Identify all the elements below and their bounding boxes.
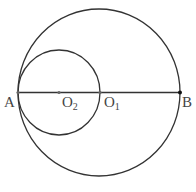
point-b-label: B: [182, 94, 192, 110]
point-o1-dot: [98, 91, 101, 94]
point-a-label: A: [4, 94, 15, 110]
point-o1-subscript: 1: [115, 101, 120, 112]
point-o1-label: O1: [104, 94, 120, 112]
point-a-dot: [16, 91, 19, 94]
geometry-diagram: AO2O1B: [0, 0, 196, 192]
point-o2-label: O2: [62, 94, 78, 112]
point-o2-subscript: 2: [73, 101, 78, 112]
point-o2-dot: [57, 91, 60, 94]
points-group: AO2O1B: [4, 91, 192, 113]
